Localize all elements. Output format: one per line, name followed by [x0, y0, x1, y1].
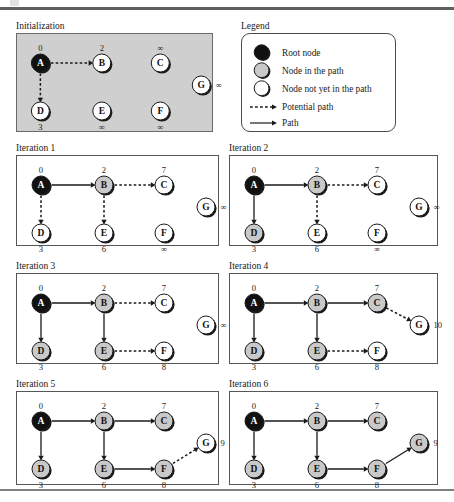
graph-edge-F-G-dashed	[173, 450, 195, 464]
node-label-F: F	[374, 228, 380, 238]
panel-graph-initialization: A0B2C∞G∞D3E∞F∞	[16, 33, 213, 132]
graph-node-E: E	[95, 342, 115, 362]
graph-node-C: C	[155, 412, 175, 432]
panel-title-iteration-5: Iteration 5	[16, 379, 55, 390]
graph-node-E: E	[308, 460, 328, 480]
panel-title-iteration-2: Iteration 2	[229, 143, 268, 154]
top-rule	[0, 7, 454, 10]
node-label-F: F	[161, 228, 167, 238]
legend-row-1: Node in the path	[248, 62, 394, 79]
node-distance-F: ∞	[157, 122, 163, 132]
node-distance-C: 7	[162, 401, 167, 411]
graph-node-G: G	[197, 434, 217, 454]
node-distance-C: 7	[162, 165, 167, 175]
node-distance-A: 0	[252, 401, 256, 411]
node-distance-A: 0	[39, 165, 43, 175]
graph-edge-C-G-dashed	[386, 308, 407, 319]
node-distance-D: 3	[39, 244, 43, 254]
node-distance-G: ∞	[221, 202, 227, 212]
legend-box: Root nodeNode in the pathNode not yet in…	[241, 33, 396, 132]
node-distance-D: 3	[252, 480, 256, 490]
node-label-B: B	[314, 416, 321, 426]
legend-node-swatch-root	[248, 44, 282, 61]
node-distance-C: 7	[375, 401, 380, 411]
graph-node-C: C	[368, 176, 388, 196]
graph-node-E: E	[95, 224, 115, 244]
panel-graph-iteration-3: A0B2C7G∞D3E6F8	[16, 273, 219, 364]
node-distance-B: 2	[102, 283, 106, 293]
node-label-B: B	[101, 298, 108, 308]
node-distance-D: 3	[252, 244, 256, 254]
graph-node-B: B	[95, 412, 115, 432]
graph-node-B: B	[93, 54, 113, 74]
node-label-B: B	[99, 58, 106, 68]
node-distance-C: ∞	[157, 43, 163, 53]
node-distance-F: 8	[375, 362, 379, 372]
node-label-F: F	[161, 464, 167, 474]
graph-node-C: C	[151, 54, 171, 74]
node-label-A: A	[38, 298, 45, 308]
legend-node-swatch-in-path	[248, 62, 282, 79]
node-distance-A: 0	[252, 165, 256, 175]
node-label-F: F	[374, 464, 380, 474]
legend-row-0: Root node	[248, 44, 394, 61]
node-distance-C: 7	[162, 283, 167, 293]
graph-node-G: G	[410, 434, 430, 454]
node-distance-G: ∞	[434, 202, 440, 212]
graph-node-D: D	[245, 460, 265, 480]
node-label-C: C	[161, 180, 168, 190]
graph-node-D: D	[32, 460, 52, 480]
node-label-D: D	[38, 228, 45, 238]
node-distance-E: 6	[315, 362, 320, 372]
graph-edge-F-G-solid	[386, 450, 408, 464]
graph-node-D: D	[245, 224, 265, 244]
graph-node-F: F	[368, 224, 388, 244]
graph-node-C: C	[155, 176, 175, 196]
legend-title: Legend	[241, 21, 270, 32]
legend-row-4: Path	[248, 114, 394, 131]
node-distance-A: 0	[39, 283, 43, 293]
node-distance-B: 2	[102, 401, 106, 411]
legend-node-circle	[254, 45, 269, 60]
node-label-D: D	[251, 228, 258, 238]
legend-label-4: Path	[282, 118, 299, 128]
node-distance-F: 8	[375, 480, 379, 490]
graph-node-B: B	[95, 294, 115, 314]
panel-title-iteration-4: Iteration 4	[229, 261, 268, 272]
node-label-B: B	[314, 180, 321, 190]
node-label-A: A	[38, 180, 45, 190]
graph-node-E: E	[308, 224, 328, 244]
graph-node-G: G	[197, 198, 217, 218]
figure-page: InitializationA0B2C∞G∞D3E∞F∞Iteration 1A…	[0, 0, 454, 502]
node-label-C: C	[161, 416, 168, 426]
graph-node-A: A	[245, 412, 265, 432]
node-distance-B: 2	[100, 43, 104, 53]
node-distance-B: 2	[102, 165, 106, 175]
graph-node-D: D	[31, 102, 51, 122]
legend-node-circle	[254, 63, 269, 78]
panel-graph-iteration-6: A0B2C7G9D3E6F8	[229, 391, 438, 485]
graph-node-A: A	[32, 412, 52, 432]
graph-node-D: D	[245, 342, 265, 362]
node-distance-G: 10	[434, 320, 443, 330]
legend-arrowhead	[272, 121, 277, 126]
graph-node-B: B	[308, 294, 328, 314]
node-label-B: B	[101, 416, 108, 426]
node-label-D: D	[251, 346, 258, 356]
panel-graph-iteration-2: A0B2C7G∞D3E6F∞	[229, 155, 438, 246]
node-distance-A: 0	[252, 283, 256, 293]
node-distance-E: 6	[102, 244, 107, 254]
graph-node-F: F	[155, 342, 175, 362]
node-label-G: G	[202, 320, 210, 330]
graph-node-G: G	[410, 316, 430, 336]
node-label-G: G	[415, 202, 423, 212]
node-label-G: G	[415, 438, 423, 448]
node-distance-F: 8	[162, 362, 166, 372]
graph-node-A: A	[32, 176, 52, 196]
graph-node-C: C	[155, 294, 175, 314]
graph-node-B: B	[95, 176, 115, 196]
graph-node-F: F	[155, 460, 175, 480]
graph-node-F: F	[151, 102, 171, 122]
legend-node-swatch-not-in-path	[248, 80, 282, 97]
node-label-G: G	[202, 202, 210, 212]
